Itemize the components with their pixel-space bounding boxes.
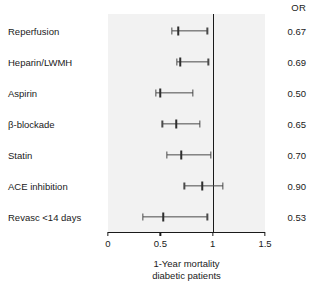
forest-plot-figure: OR Reperfusion0.67Heparin/LWMH0.69Aspiri… — [0, 0, 314, 289]
forest-row-label: ACE inhibition — [8, 181, 68, 192]
x-axis-tick-label: 0 — [105, 238, 110, 249]
point-estimate-marker — [160, 89, 162, 98]
forest-row-or-value: 0.50 — [266, 88, 306, 99]
ci-whisker-line — [162, 123, 200, 124]
confidence-interval — [108, 174, 265, 198]
ci-lower-cap — [166, 152, 167, 159]
ci-lower-cap — [176, 59, 177, 66]
ci-upper-cap — [210, 152, 211, 159]
ci-whisker-line — [156, 92, 193, 93]
ci-lower-cap — [171, 28, 172, 35]
confidence-interval — [108, 19, 265, 43]
forest-row-label: Heparin/LWMH — [8, 57, 72, 68]
ci-lower-cap — [184, 183, 185, 190]
ci-lower-cap — [142, 214, 143, 221]
forest-row: Aspirin0.50 — [0, 81, 314, 105]
forest-row-label: Reperfusion — [8, 26, 59, 37]
or-column-header: OR — [266, 2, 306, 13]
x-axis-tick-label: 1 — [210, 238, 215, 249]
point-estimate-marker — [181, 151, 183, 160]
confidence-interval — [108, 112, 265, 136]
x-axis-tick-label: 0.5 — [154, 238, 167, 249]
ci-upper-cap — [207, 214, 208, 221]
forest-row-or-value: 0.65 — [266, 119, 306, 130]
forest-row-label: Aspirin — [8, 88, 37, 99]
forest-row-or-value: 0.67 — [266, 26, 306, 37]
confidence-interval — [108, 143, 265, 167]
x-axis-line — [108, 232, 265, 233]
forest-row-label: Statin — [8, 150, 32, 161]
ci-upper-cap — [207, 28, 208, 35]
forest-row: Statin0.70 — [0, 143, 314, 167]
forest-row-label: Revasc <14 days — [8, 212, 81, 223]
forest-row-or-value: 0.90 — [266, 181, 306, 192]
ci-lower-cap — [155, 90, 156, 97]
ci-upper-cap — [199, 121, 200, 128]
ci-upper-cap — [208, 59, 209, 66]
point-estimate-marker — [201, 182, 203, 191]
x-axis-tick — [160, 232, 161, 236]
ci-whisker-line — [167, 154, 211, 155]
ci-whisker-line — [184, 185, 223, 186]
confidence-interval — [108, 81, 265, 105]
x-axis-tick — [264, 232, 265, 236]
confidence-interval — [108, 205, 265, 229]
confidence-interval — [108, 50, 265, 74]
forest-row: Revasc <14 days0.53 — [0, 205, 314, 229]
x-axis-tick — [212, 232, 213, 236]
point-estimate-marker — [179, 58, 181, 67]
point-estimate-marker — [175, 120, 177, 129]
ci-whisker-line — [143, 216, 208, 217]
x-axis-caption: 1-Year mortality diabetic patients — [108, 258, 265, 282]
forest-row: β-blockade0.65 — [0, 112, 314, 136]
forest-row: ACE inhibition0.90 — [0, 174, 314, 198]
x-axis-caption-line-1: 1-Year mortality — [108, 258, 265, 270]
x-axis-tick — [107, 232, 108, 236]
ci-whisker-line — [177, 61, 208, 62]
forest-row-label: β-blockade — [8, 119, 55, 130]
forest-row: Heparin/LWMH0.69 — [0, 50, 314, 74]
forest-row-or-value: 0.69 — [266, 57, 306, 68]
x-axis-caption-line-2: diabetic patients — [108, 270, 265, 282]
ci-lower-cap — [162, 121, 163, 128]
forest-row-or-value: 0.70 — [266, 150, 306, 161]
forest-row-or-value: 0.53 — [266, 212, 306, 223]
ci-upper-cap — [192, 90, 193, 97]
forest-row: Reperfusion0.67 — [0, 19, 314, 43]
point-estimate-marker — [177, 27, 179, 36]
ci-upper-cap — [222, 183, 223, 190]
x-axis-tick-label: 1.5 — [258, 238, 271, 249]
point-estimate-marker — [163, 213, 165, 222]
